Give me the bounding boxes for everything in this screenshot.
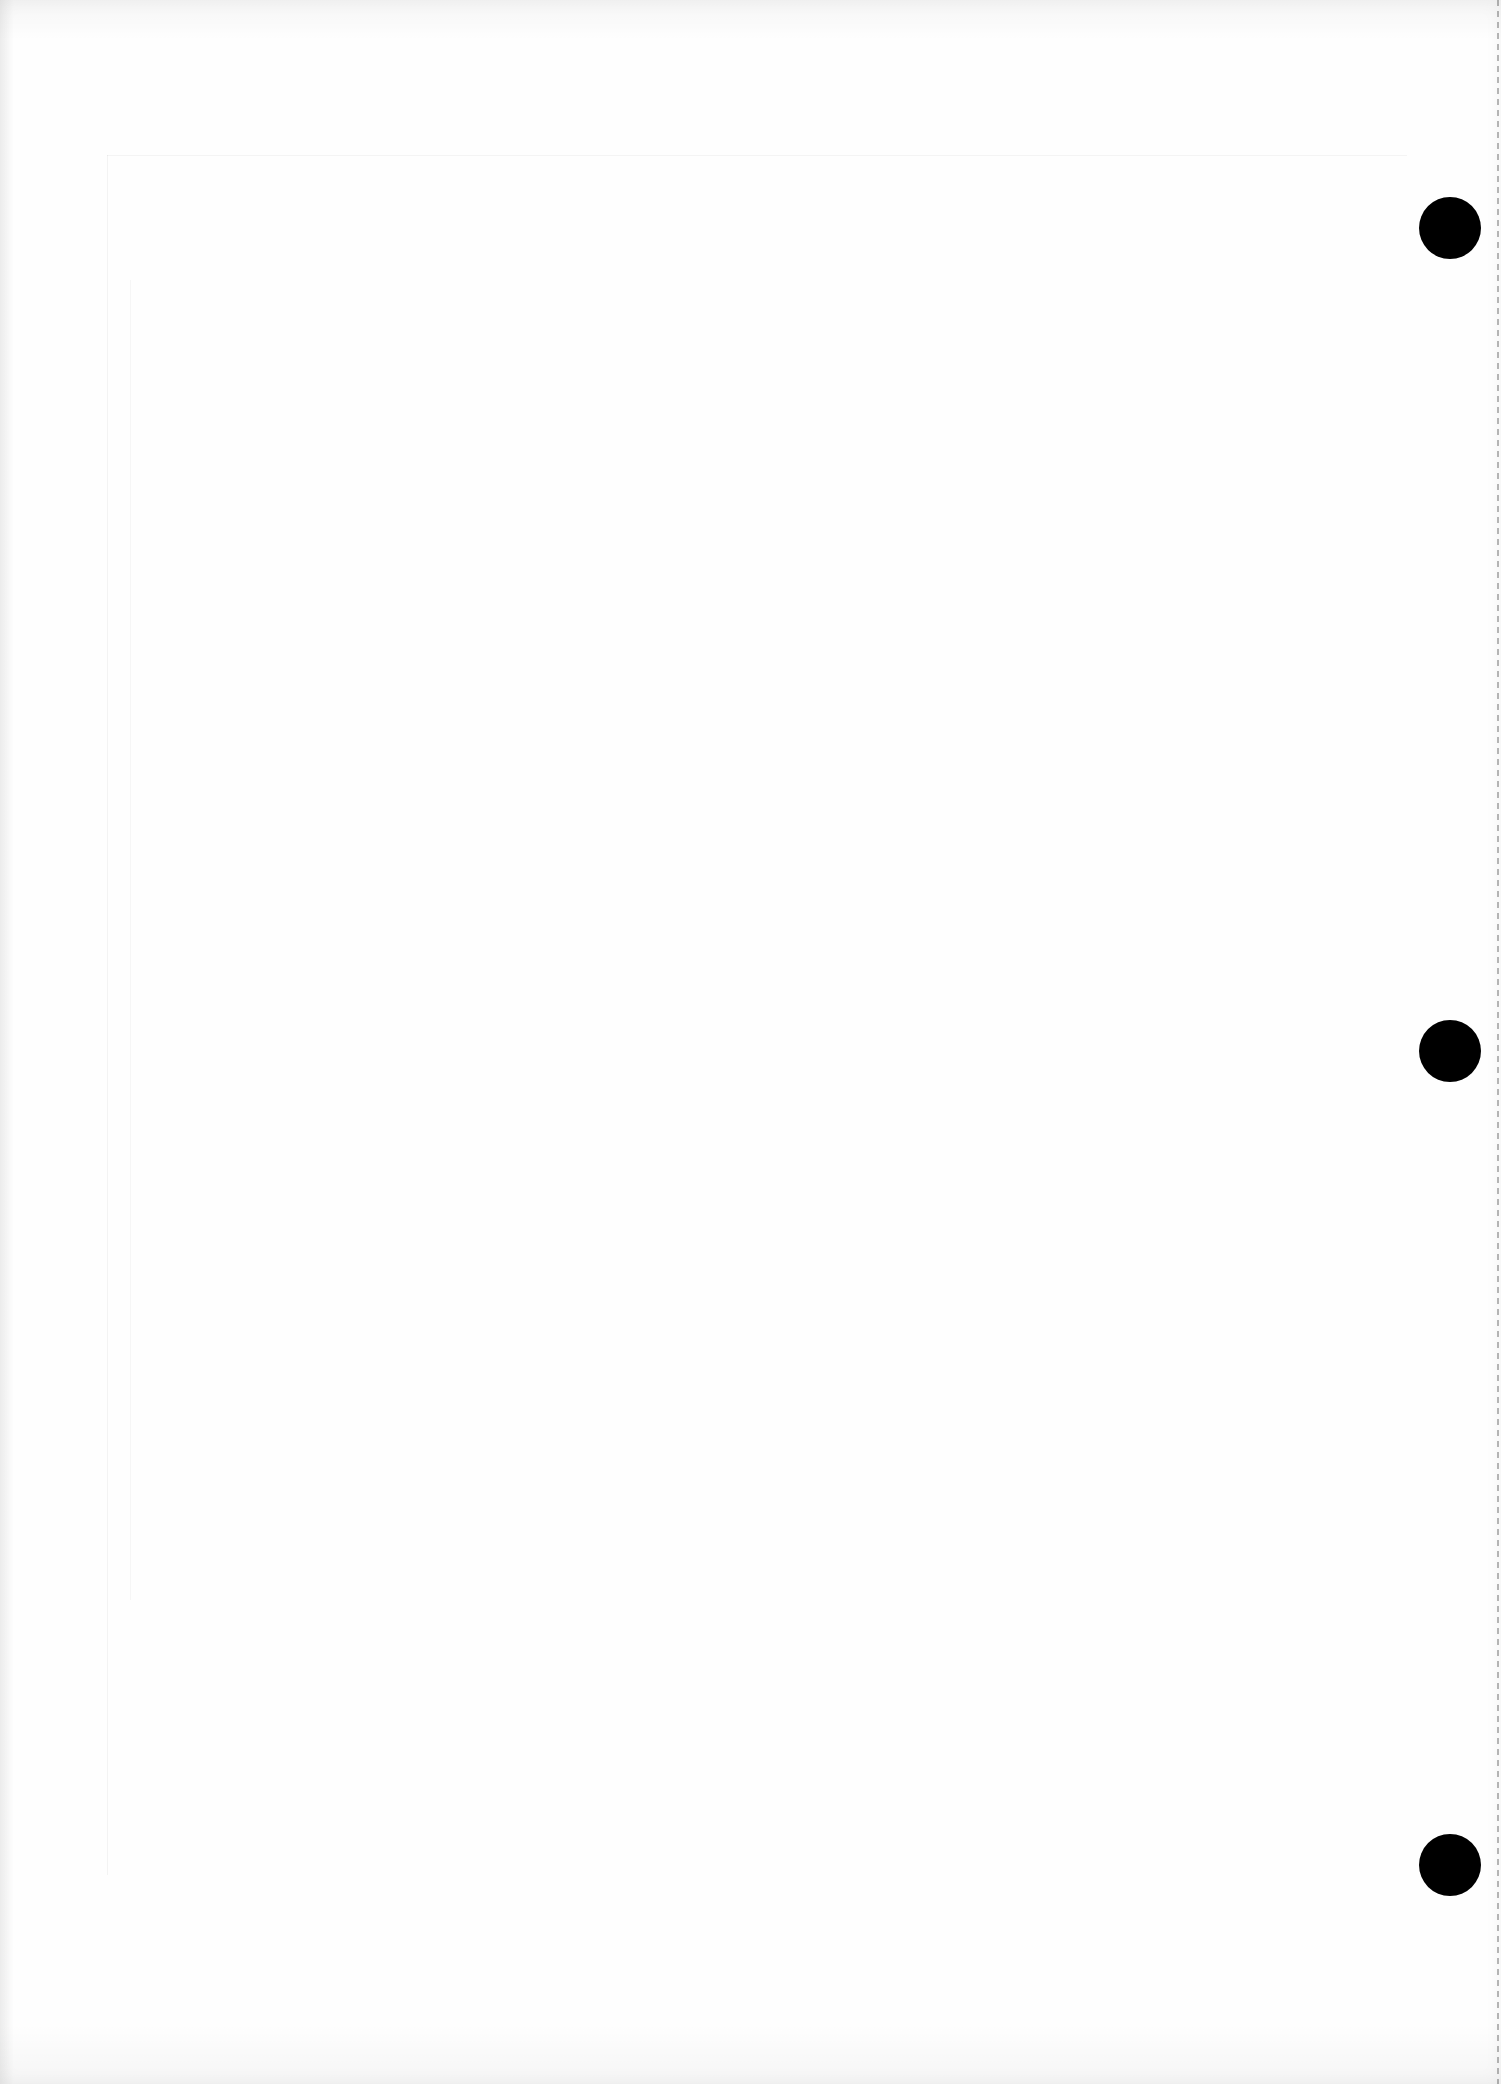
middle-punch-hole-icon [1419, 1020, 1481, 1082]
faint-margin-line-left [107, 155, 108, 1875]
bleed-through-texture: ▒▒▒▒▒▒▒▒▒▒▒▒▒▒▒▒ [95, 100, 258, 115]
bleed-through-texture: ▒▒▒▒▒▒▒▒▒▒▒▒▒▒▒▒▒▒▒▒▒▒▒▒ [480, 225, 725, 240]
top-punch-hole-icon [1419, 197, 1481, 259]
bleed-through-texture: ▒▒▒▒▒▒▒▒▒▒▒▒▒▒▒▒▒▒▒▒▒▒▒▒▒▒▒▒▒▒▒▒▒▒▒▒ [300, 2020, 668, 2035]
scan-edge-shadow-left [0, 0, 14, 2084]
faint-margin-line-inner [130, 280, 131, 1600]
bleed-through-texture: ▒▒▒▒▒▒▒▒▒▒▒▒▒▒▒▒▒▒▒▒▒▒ [640, 40, 865, 55]
perforation-line [1497, 0, 1499, 2084]
scanned-page: ▒▒▒▒▒▒▒▒▒▒▒▒▒▒▒▒ ▒▒▒▒▒▒▒▒▒▒▒▒▒▒▒▒▒▒▒▒▒▒ … [0, 0, 1501, 2084]
bottom-punch-hole-icon [1419, 1834, 1481, 1896]
scan-edge-shadow-bottom [0, 2024, 1501, 2084]
scan-edge-shadow-top [0, 0, 1501, 40]
faint-frame-line-top [107, 155, 1407, 156]
